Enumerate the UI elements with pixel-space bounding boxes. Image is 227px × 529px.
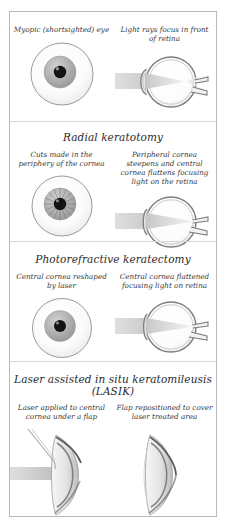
prk-right-panel: Central cornea flattened focusing light … [113,272,216,360]
illustration-page: Myopic (shortsighted) eye [9,11,217,517]
prk-left-caption: Central cornea reshaped by laser [10,272,113,290]
section-photorefractive-keratectomy: Photorefractive keratectomy Central corn… [10,242,216,362]
lasik-flap-closed-figure [113,429,216,517]
myopia-front-eye-figure [10,40,113,108]
prk-heading: Photorefractive keratectomy [10,242,216,265]
rk-right-caption: Peripheral cornea steepens and central c… [113,150,216,186]
eye-cross-section-icon [115,296,215,358]
rk-right-panel: Peripheral cornea steepens and central c… [113,150,216,253]
eye-front-icon [28,296,96,360]
prk-left-panel: Central cornea reshaped by laser [10,272,113,360]
myopia-left-panel: Myopic (shortsighted) eye [10,25,113,115]
section-radial-keratotomy: Radial keratotomy Cuts made in the perip… [10,122,216,242]
lasik-left-panel: Laser applied to central cornea under a … [10,403,113,517]
section-lasik: Laser assisted in situ keratomileusis (L… [10,362,216,517]
cornea-flap-open-icon [10,429,114,517]
myopia-right-panel: Light rays focus in front of retina [113,25,216,115]
myopia-right-caption: Light rays focus in front of retina [113,25,216,43]
eye-front-icon [28,40,96,108]
cornea-flap-closed-icon [120,429,210,517]
section-myopia: Myopic (shortsighted) eye [10,12,216,122]
rk-left-panel: Cuts made in the periphery of the cornea [10,150,113,253]
prk-front-eye-figure [10,296,113,360]
lasik-left-caption: Laser applied to central cornea under a … [10,403,113,421]
lasik-heading-acronym: (LASIK) [10,385,216,397]
prk-side-eye-figure [113,296,216,358]
myopia-left-caption: Myopic (shortsighted) eye [10,25,113,34]
rk-left-caption: Cuts made in the periphery of the cornea [10,150,113,168]
radial-keratotomy-heading: Radial keratotomy [10,122,216,143]
myopia-side-eye-figure [113,49,216,115]
prk-right-caption: Central cornea flattened focusing light … [113,272,216,290]
lasik-right-panel: Flap repositioned to cover laser treated… [113,403,216,517]
lasik-right-caption: Flap repositioned to cover laser treated… [113,403,216,421]
lasik-flap-open-figure [10,429,113,517]
rk-front-eye-figure [10,173,113,239]
lasik-heading: Laser assisted in situ keratomileusis [10,362,216,385]
eye-cross-section-icon [115,49,215,115]
eye-front-radial-cuts-icon [28,173,96,239]
